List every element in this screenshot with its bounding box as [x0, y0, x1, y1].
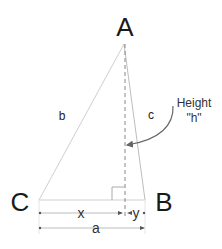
vertex-a-label: A	[116, 12, 134, 42]
dimension-y-label: y	[133, 205, 140, 221]
dimension-x-end-arrow	[118, 211, 123, 215]
height-label-line2: "h"	[186, 111, 201, 125]
dimension-x-label: x	[78, 205, 85, 221]
side-b-line	[39, 44, 124, 200]
side-c-line	[124, 44, 145, 200]
vertex-c-label: C	[11, 187, 30, 217]
triangle-diagram: x y a A C B b c Height "h"	[0, 0, 222, 249]
dimension-a-end-arrow	[140, 226, 145, 230]
dimension-a-start-dot	[39, 227, 41, 229]
side-c-label: c	[148, 108, 154, 122]
dimension-a-label: a	[92, 220, 100, 236]
right-angle-marker	[112, 187, 125, 200]
vertex-b-label: B	[155, 187, 172, 217]
dimension-x-start-dot	[39, 212, 41, 214]
dimension-y-end-dot	[143, 212, 145, 214]
dimension-y-start-arrow	[127, 211, 132, 215]
height-label-line1: Height	[177, 96, 212, 110]
side-b-label: b	[59, 109, 66, 123]
